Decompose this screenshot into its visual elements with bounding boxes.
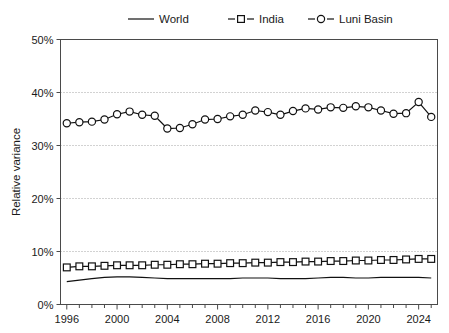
y-axis-title: Relative variance xyxy=(10,128,22,216)
data-point-marker xyxy=(176,124,183,131)
series-line xyxy=(67,259,431,267)
y-tick-label: 10% xyxy=(31,246,53,258)
data-point-marker xyxy=(377,107,384,114)
series-india xyxy=(63,256,434,271)
data-point-marker xyxy=(403,256,410,263)
data-point-marker xyxy=(252,107,259,114)
legend-item-luni-basin: Luni Basin xyxy=(308,13,393,25)
series-line xyxy=(67,102,431,128)
y-tick-label: 30% xyxy=(31,140,53,152)
data-point-marker xyxy=(252,259,259,266)
data-point-marker xyxy=(126,262,133,269)
x-tick-label: 2024 xyxy=(406,313,430,325)
data-point-marker xyxy=(402,110,409,117)
data-point-marker xyxy=(114,262,121,269)
series-line xyxy=(67,277,431,282)
x-tick-label: 2000 xyxy=(105,313,129,325)
y-tick-label: 20% xyxy=(31,193,53,205)
y-tick-label: 50% xyxy=(31,34,53,46)
data-point-marker xyxy=(277,111,284,118)
data-point-marker xyxy=(315,106,322,113)
x-tick-label: 2020 xyxy=(356,313,380,325)
data-point-marker xyxy=(428,113,435,120)
data-point-marker xyxy=(340,104,347,111)
data-point-marker xyxy=(365,104,372,111)
x-tick-label: 2012 xyxy=(256,313,280,325)
data-point-marker xyxy=(239,111,246,118)
data-point-marker xyxy=(327,258,334,265)
data-point-marker xyxy=(277,259,284,266)
data-point-marker xyxy=(352,103,359,110)
data-point-marker xyxy=(428,256,435,263)
data-point-marker xyxy=(264,109,271,116)
data-point-marker xyxy=(63,120,70,127)
data-point-marker xyxy=(352,257,359,264)
data-point-marker xyxy=(227,113,234,120)
data-point-marker xyxy=(151,112,158,119)
data-point-marker xyxy=(302,105,309,112)
legend-label: World xyxy=(159,13,189,25)
x-tick-label: 1996 xyxy=(55,313,79,325)
data-point-marker xyxy=(378,257,385,264)
data-point-marker xyxy=(139,111,146,118)
data-point-marker xyxy=(189,121,196,128)
series-world xyxy=(67,277,431,282)
data-point-marker xyxy=(151,261,158,268)
data-point-marker xyxy=(164,261,171,268)
data-point-marker xyxy=(302,258,309,265)
data-point-marker xyxy=(76,263,83,270)
data-point-marker xyxy=(289,107,296,114)
data-point-marker xyxy=(189,261,196,268)
x-tick-label: 2016 xyxy=(306,313,330,325)
data-point-marker xyxy=(101,262,108,269)
x-tick-label: 2004 xyxy=(155,313,179,325)
legend-label: Luni Basin xyxy=(339,13,393,25)
y-tick-label: 0% xyxy=(38,299,54,311)
data-point-marker xyxy=(239,260,246,267)
data-point-marker xyxy=(164,125,171,132)
data-point-marker xyxy=(126,108,133,115)
y-tick-label: 40% xyxy=(31,87,53,99)
series-luni-basin xyxy=(63,98,435,132)
data-point-marker xyxy=(315,258,322,265)
data-point-marker xyxy=(327,104,334,111)
data-point-marker xyxy=(317,15,324,22)
y-axis-title: Relative variance xyxy=(10,128,22,216)
data-point-marker xyxy=(101,116,108,123)
legend-item-world: World xyxy=(128,13,189,25)
relative-variance-line-chart: WorldIndiaLuni Basin 0%10%20%30%40%50% 1… xyxy=(0,0,449,333)
legend: WorldIndiaLuni Basin xyxy=(128,13,393,25)
data-point-marker xyxy=(214,260,221,267)
y-axis-ticks: 0%10%20%30%40%50% xyxy=(31,34,60,311)
chart-container: WorldIndiaLuni Basin 0%10%20%30%40%50% 1… xyxy=(0,0,449,333)
data-point-marker xyxy=(390,257,397,264)
data-point-marker xyxy=(202,260,209,267)
data-point-marker xyxy=(89,263,96,270)
legend-label: India xyxy=(259,13,285,25)
data-point-marker xyxy=(365,257,372,264)
data-point-marker xyxy=(415,98,422,105)
data-point-marker xyxy=(113,111,120,118)
data-point-marker xyxy=(390,110,397,117)
data-point-marker xyxy=(227,260,234,267)
data-point-marker xyxy=(88,118,95,125)
data-point-marker xyxy=(290,259,297,266)
data-point-marker xyxy=(264,259,271,266)
data-point-marker xyxy=(76,119,83,126)
data-point-marker xyxy=(214,115,221,122)
data-point-marker xyxy=(63,264,70,271)
data-point-marker xyxy=(176,261,183,268)
data-point-marker xyxy=(415,256,422,263)
x-axis-ticks: 19962000200420082012201620202024 xyxy=(55,305,432,325)
legend-item-india: India xyxy=(228,13,285,25)
data-point-marker xyxy=(238,16,245,23)
x-tick-label: 2008 xyxy=(205,313,229,325)
data-point-marker xyxy=(340,258,347,265)
data-point-marker xyxy=(139,262,146,269)
data-point-marker xyxy=(201,116,208,123)
